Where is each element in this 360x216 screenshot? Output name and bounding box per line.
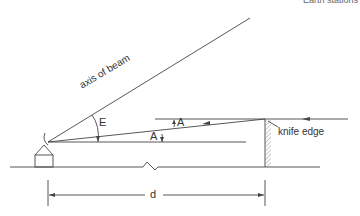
antenna-roof xyxy=(35,145,53,155)
diagram-canvas: Earth stations xyxy=(0,0,360,216)
knife-edge-hatch xyxy=(265,120,271,167)
arrow-incoming xyxy=(302,117,310,121)
arrow-e xyxy=(96,136,100,142)
antenna-building xyxy=(35,155,53,167)
arrow-a-upper xyxy=(172,120,176,124)
angle-a-upper-label: A xyxy=(177,117,184,128)
elevation-angle-label: E xyxy=(99,117,106,128)
arrow-right-dim xyxy=(258,193,264,197)
knife-edge-label: knife edge xyxy=(278,127,324,137)
angle-a-lower-label: A xyxy=(150,131,157,142)
distance-label: d xyxy=(150,189,156,200)
ground-break-icon xyxy=(143,162,158,170)
arrow-left-dim xyxy=(49,193,55,197)
diagram-svg xyxy=(0,0,360,216)
arrow-ray xyxy=(202,121,210,125)
antenna-dish-icon xyxy=(44,133,48,145)
arrow-a-lower xyxy=(160,137,164,142)
